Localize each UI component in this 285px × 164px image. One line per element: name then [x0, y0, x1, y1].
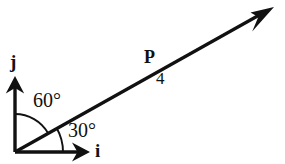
angle-arc-30 — [57, 128, 63, 152]
vector-P-magnitude-label: 4 — [156, 70, 165, 87]
vector-diagram-figure: j i P 4 60° 30° — [0, 0, 285, 164]
vector-P-shaft — [15, 14, 262, 153]
vector-P-label: P — [144, 48, 155, 66]
vector-P-arrow — [15, 7, 274, 152]
angle-60-degrees-label: 60° — [33, 90, 61, 110]
basis-vector-i-label: i — [95, 141, 100, 160]
vector-diagram-canvas — [0, 0, 285, 164]
angle-arc-60 — [15, 114, 48, 133]
basis-vector-j-label: j — [10, 52, 16, 71]
angle-30-degrees-label: 30° — [68, 120, 96, 140]
